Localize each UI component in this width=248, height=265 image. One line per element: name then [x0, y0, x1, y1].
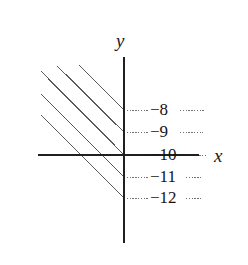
- y-tick-label-minus-10: −10: [150, 146, 177, 163]
- y-tick-label-minus-9: −9: [150, 123, 168, 140]
- x-axis-label: x: [214, 146, 222, 165]
- y-tick-label-minus-11: −11: [150, 168, 176, 185]
- diagonal-line-3: [41, 71, 124, 155]
- y-tick-label-minus-8: −8: [150, 101, 168, 118]
- coordinate-plane-figure: y x −8 −9 −10 −11 −12: [0, 0, 248, 265]
- y-tick-label-minus-12: −12: [150, 189, 177, 206]
- diagonal-line-5: [41, 115, 124, 198]
- diagonal-line-1: [79, 65, 124, 110]
- diagonal-line-4: [41, 94, 124, 177]
- y-axis-label: y: [116, 31, 124, 50]
